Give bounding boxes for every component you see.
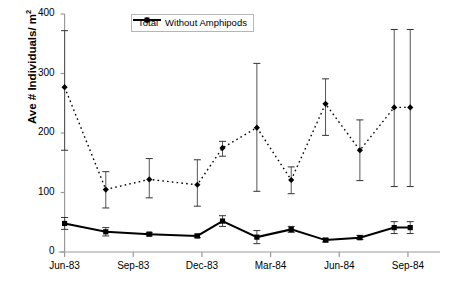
x-axis-tick-label: Dec-83: [172, 260, 232, 271]
data-point-marker: [254, 235, 259, 240]
chart-container: Ave # Individuals/ m2 0100200300400 Jun-…: [0, 0, 456, 283]
data-point-marker: [254, 125, 260, 131]
x-axis-tick-label: Sep-83: [103, 260, 163, 271]
y-axis-tick-label: 400: [23, 7, 55, 18]
chart-legend: TotalWithout Amphipods: [131, 14, 254, 32]
data-point-marker: [289, 227, 294, 232]
data-point-marker: [323, 238, 328, 243]
x-axis-tick-label: Mar-84: [241, 260, 301, 271]
data-point-marker: [288, 177, 294, 183]
data-point-marker: [103, 186, 109, 192]
data-point-marker: [407, 104, 413, 110]
data-point-marker: [103, 229, 108, 234]
y-axis-tick-label: 0: [23, 245, 55, 256]
x-axis-tick-label: Jun-83: [35, 260, 95, 271]
data-point-marker: [220, 218, 225, 223]
data-point-marker: [357, 235, 362, 240]
legend-entry-2: Without Amphipods: [165, 17, 247, 28]
data-point-marker: [195, 233, 200, 238]
y-axis-tick-label: 300: [23, 67, 55, 78]
data-point-marker: [392, 225, 397, 230]
legend-label: Without Amphipods: [165, 17, 247, 28]
data-point-marker: [62, 221, 67, 226]
data-point-marker: [147, 232, 152, 237]
x-axis-tick-label: Sep-84: [378, 260, 438, 271]
data-point-marker: [146, 176, 152, 182]
legend-swatch-square-icon: [132, 15, 162, 25]
plot-area: [0, 0, 456, 283]
y-axis-tick-label: 100: [23, 186, 55, 197]
data-point-marker: [194, 182, 200, 188]
y-axis-tick-label: 200: [23, 126, 55, 137]
data-point-marker: [61, 84, 67, 90]
x-axis-tick-label: Jun-84: [309, 260, 369, 271]
series-line-1: [65, 87, 411, 189]
data-point-marker: [408, 225, 413, 230]
